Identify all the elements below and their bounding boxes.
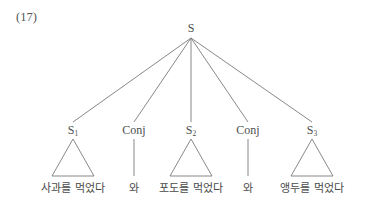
tree-lines (0, 0, 367, 205)
leaf-conj1: 와 (129, 183, 139, 194)
node-s2-subscript: 2 (192, 129, 196, 138)
node-s2-label: S (186, 123, 193, 137)
branch-root-conj1 (134, 38, 191, 122)
node-s3-subscript: 3 (313, 129, 317, 138)
node-s3: S3 (307, 124, 317, 136)
triangle-s2 (170, 139, 212, 176)
node-s1-subscript: 1 (74, 129, 78, 138)
node-conj1: Conj (122, 124, 145, 136)
node-s1-label: S (68, 123, 75, 137)
leaf-s3: 앵두를 먹었다 (280, 183, 345, 194)
node-conj2-label: Conj (236, 123, 259, 137)
leaf-s1: 사과를 먹었다 (41, 183, 106, 194)
triangle-s3 (291, 139, 333, 176)
node-conj2: Conj (236, 124, 259, 136)
triangle-s1 (52, 139, 94, 176)
branch-root-s3 (191, 38, 312, 122)
branch-root-s1 (73, 38, 191, 122)
node-s1: S1 (68, 124, 78, 136)
node-root-s: S (188, 22, 195, 34)
node-s2: S2 (186, 124, 196, 136)
branch-root-conj2 (191, 38, 248, 122)
leaf-s2: 포도를 먹었다 (159, 183, 224, 194)
syntax-tree-figure: (17) S S1 Conj S2 Co (0, 0, 367, 205)
leaf-conj2: 와 (243, 183, 253, 194)
node-conj1-label: Conj (122, 123, 145, 137)
node-s3-label: S (307, 123, 314, 137)
